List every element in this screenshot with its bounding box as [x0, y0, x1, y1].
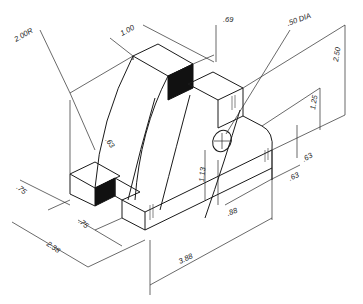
- label-slot-depth: .63: [103, 136, 117, 150]
- label-overall-depth: 2.38: [44, 239, 63, 256]
- label-radius: 2.00R: [12, 26, 35, 45]
- label-top-width: 1.00: [119, 23, 137, 38]
- label-boss-height: 1.25: [308, 94, 320, 111]
- dimension-lines: [12, 25, 345, 295]
- label-hole: .50 DIA: [286, 11, 313, 28]
- label-hole-offset: .88: [226, 206, 240, 218]
- label-boss-offset-bottom: .63: [287, 170, 301, 183]
- label-mid-foot: .75: [77, 217, 91, 231]
- label-boss-offset-right: .63: [301, 150, 315, 163]
- label-hole-height: 1.13: [197, 166, 207, 182]
- label-left-foot: .75: [15, 183, 29, 197]
- label-top-depth: .69: [223, 15, 234, 24]
- label-overall-length: 3.88: [177, 251, 195, 266]
- part-outline: [70, 44, 272, 230]
- isometric-drawing: 2.00R 1.00 .69 .50 DIA 2.50 1.25 .63 1.1…: [0, 0, 363, 304]
- label-overall-height: 2.50: [331, 46, 343, 64]
